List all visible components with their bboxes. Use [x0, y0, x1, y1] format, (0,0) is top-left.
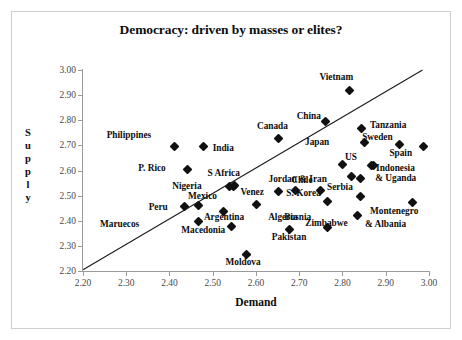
data-point-label: Montenegro: [370, 206, 418, 216]
y-tick-label-text: 2.20: [44, 266, 76, 276]
data-point-label: & Uganda: [375, 173, 416, 183]
y-tick-label: 2.60: [42, 166, 76, 176]
data-point-label: S. Korea: [286, 188, 320, 198]
y-tick-label: 2.40: [42, 216, 76, 226]
data-point-label: Philippines: [107, 130, 151, 140]
data-point-label: Pakistan: [272, 232, 307, 242]
y-tick-mark: [78, 171, 83, 172]
x-tick-mark: [342, 271, 343, 276]
y-axis-label-letter: l: [20, 178, 36, 191]
data-point-label: Chile: [291, 175, 312, 185]
data-point-label: Maruecos: [100, 219, 139, 229]
y-tick-label-text: 2.40: [44, 216, 76, 226]
y-axis-label: Supply: [20, 126, 36, 204]
y-tick-mark: [78, 246, 83, 247]
y-tick-label-text: 2.80: [44, 115, 76, 125]
x-tick-label: 2.60: [236, 278, 276, 288]
y-axis-label-letter: S: [20, 126, 36, 139]
data-point-label: China: [297, 111, 321, 121]
x-tick-label: 2.80: [323, 278, 363, 288]
x-tick-mark: [299, 271, 300, 276]
y-axis-label-letter: u: [20, 139, 36, 152]
chart-title: Democracy: driven by masses or elites?: [0, 22, 462, 38]
x-tick-mark: [213, 271, 214, 276]
data-point-label: Sweden: [362, 132, 392, 142]
x-tick-mark: [429, 271, 430, 276]
y-tick-label: 3.00: [42, 65, 76, 75]
y-tick-mark: [78, 95, 83, 96]
x-tick-label: 2.20: [63, 278, 103, 288]
y-tick-label: 2.70: [42, 140, 76, 150]
y-tick-mark: [78, 221, 83, 222]
data-point-label: Venez: [240, 187, 263, 197]
data-point-label: Indonesia: [376, 163, 415, 173]
x-tick-label: 3.00: [409, 278, 449, 288]
y-axis-label-letter: p: [20, 165, 36, 178]
chart-figure: Democracy: driven by masses or elites? S…: [0, 0, 462, 340]
data-point-label: S Africa: [208, 168, 240, 178]
data-point-label: India: [213, 143, 234, 153]
x-tick-mark: [126, 271, 127, 276]
data-point-label: & Albania: [365, 219, 406, 229]
y-tick-label: 2.80: [42, 115, 76, 125]
x-tick-label: 2.40: [150, 278, 190, 288]
y-tick-label: 2.90: [42, 90, 76, 100]
x-axis-label: Demand: [83, 296, 429, 308]
y-tick-label: 2.50: [42, 191, 76, 201]
x-tick-label: 2.70: [279, 278, 319, 288]
data-point-label: US: [345, 152, 357, 162]
data-point-label: Zimbabwe: [305, 218, 347, 228]
data-point-label: Nigeria: [172, 181, 201, 191]
y-tick-mark: [78, 145, 83, 146]
data-point-label: Vietnam: [319, 72, 353, 82]
y-tick-label-text: 2.30: [44, 241, 76, 251]
data-point-label: P. Rico: [138, 163, 166, 173]
data-point-label: Moldova: [225, 257, 260, 267]
y-tick-label-text: 3.00: [44, 65, 76, 75]
data-point-label: Japan: [305, 137, 329, 147]
y-tick-mark: [78, 70, 83, 71]
y-tick-mark: [78, 196, 83, 197]
x-tick-mark: [169, 271, 170, 276]
data-point-label: Macedonia: [181, 225, 225, 235]
data-point-label: Spain: [389, 148, 412, 158]
data-point-label: Tanzania: [370, 120, 406, 130]
x-tick-label: 2.90: [366, 278, 406, 288]
x-tick-mark: [386, 271, 387, 276]
y-axis-label-letter: y: [20, 191, 36, 204]
data-point-label: Peru: [149, 202, 168, 212]
x-tick-label: 2.50: [193, 278, 233, 288]
y-tick-mark: [78, 120, 83, 121]
y-tick-label-text: 2.90: [44, 90, 76, 100]
x-tick-label: 2.30: [106, 278, 146, 288]
x-tick-mark: [83, 271, 84, 276]
y-tick-label-text: 2.70: [44, 140, 76, 150]
y-tick-label-text: 2.60: [44, 166, 76, 176]
y-tick-label-text: 2.50: [44, 191, 76, 201]
data-point-label: Canada: [257, 121, 288, 131]
data-point-label: Serbia: [327, 182, 353, 192]
y-axis-label-letter: p: [20, 152, 36, 165]
data-point-label: Mexico: [188, 191, 217, 201]
x-tick-mark: [256, 271, 257, 276]
y-tick-label: 2.30: [42, 241, 76, 251]
y-tick-label: 2.20: [42, 266, 76, 276]
